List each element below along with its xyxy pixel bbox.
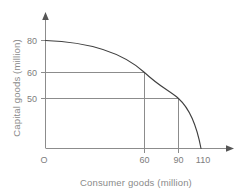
x-axis-title: Consumer goods (million) xyxy=(80,177,192,188)
x-tick-label-110: 110 xyxy=(196,155,210,165)
ppf-plot-area: 80 60 50 O 60 90 110 Consumer goods (mil… xyxy=(0,0,248,195)
y-axis-title: Capital goods (million) xyxy=(11,39,22,136)
y-tick-label-80: 80 xyxy=(27,36,37,46)
x-tick-label-60: 60 xyxy=(139,155,149,165)
x-axis-arrowhead xyxy=(226,145,234,152)
origin-label: O xyxy=(40,155,47,165)
y-tick-label-50: 50 xyxy=(27,94,37,104)
ppf-curve xyxy=(46,41,202,149)
ppf-chart: 80 60 50 O 60 90 110 Consumer goods (mil… xyxy=(0,0,248,195)
x-tick-label-90: 90 xyxy=(173,155,183,165)
y-tick-label-60: 60 xyxy=(27,68,37,78)
y-axis-arrowhead xyxy=(42,12,49,20)
